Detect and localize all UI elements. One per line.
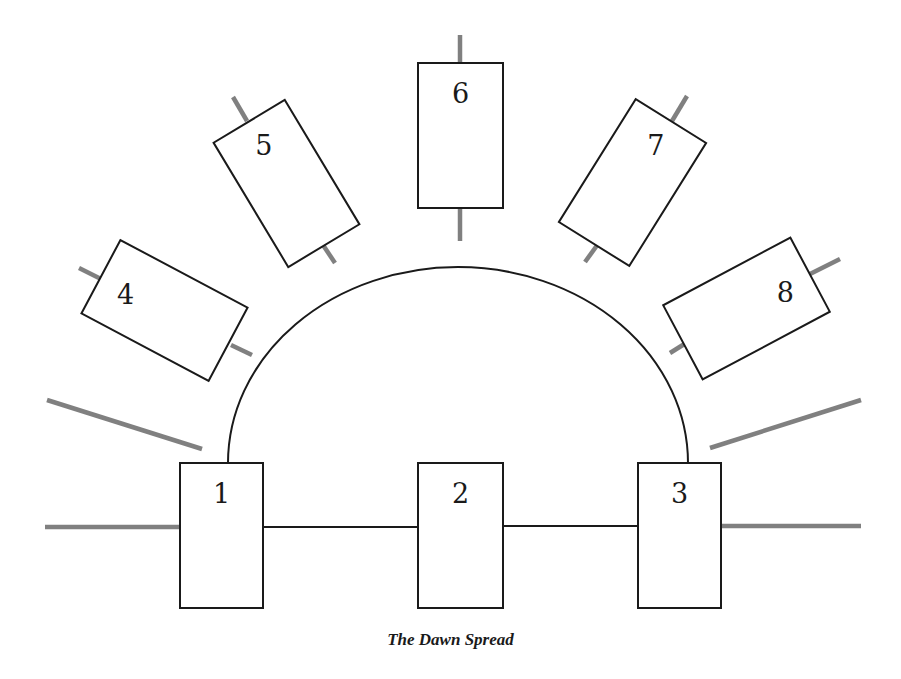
card-position-5: 5 [214, 100, 360, 267]
card-number: 7 [647, 130, 664, 161]
diagram-caption: The Dawn Spread [0, 630, 901, 650]
stick-card5-inner [323, 245, 335, 263]
stick-card4-outer [79, 268, 101, 279]
dawn-spread-diagram: 12345678 [0, 0, 901, 679]
stick-right-diagonal [710, 400, 861, 448]
cards-layer: 12345678 [81, 63, 829, 608]
stick-card4-inner [231, 345, 252, 355]
card-number: 8 [777, 277, 794, 308]
card-outline [214, 100, 360, 267]
card-number: 6 [452, 78, 469, 109]
card-number: 3 [671, 478, 688, 509]
card-position-2: 2 [418, 463, 503, 608]
stick-card5-outer [233, 97, 247, 121]
card-position-4: 4 [81, 240, 247, 381]
card-position-7: 7 [559, 99, 706, 266]
stick-card8-outer [808, 259, 840, 275]
card-outline [663, 238, 830, 380]
stick-card7-outer [672, 96, 687, 121]
card-position-6: 6 [418, 63, 503, 208]
card-outline [81, 240, 247, 381]
card-position-3: 3 [638, 463, 721, 608]
card-number: 2 [452, 478, 469, 509]
stick-left-diagonal [47, 400, 202, 449]
card-position-1: 1 [180, 463, 263, 608]
card-position-8: 8 [663, 238, 830, 380]
card-number: 5 [255, 130, 272, 161]
arc-connector [228, 267, 688, 463]
card-number: 4 [117, 279, 134, 310]
stick-card7-inner [585, 244, 598, 262]
card-outline [559, 99, 706, 266]
card-number: 1 [213, 478, 230, 509]
